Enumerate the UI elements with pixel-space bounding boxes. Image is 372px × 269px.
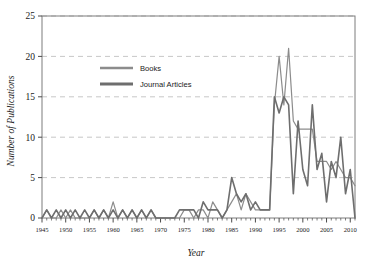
x-tick-label-2010: 2010 [344, 226, 358, 233]
y-tick-label-0: 0 [30, 213, 35, 223]
x-tick-label-1980: 1980 [201, 226, 215, 233]
x-tick-label-1965: 1965 [130, 226, 144, 233]
y-tick-label-5: 5 [30, 173, 35, 183]
x-tick-label-1995: 1995 [273, 226, 287, 233]
legend-label-journal-articles: Journal Articles [140, 80, 192, 89]
y-tick-label-20: 20 [26, 52, 36, 62]
x-tick-label-2005: 2005 [320, 226, 334, 233]
x-tick-label-1955: 1955 [83, 226, 97, 233]
y-axis-title: Number of Publications [6, 75, 16, 167]
chart-canvas: 0510152025 19451950195519601965197019751… [0, 0, 372, 269]
y-tick-label-15: 15 [26, 92, 36, 102]
x-axis-title: Year [187, 248, 204, 258]
x-tick-label-1990: 1990 [249, 226, 263, 233]
x-tick-label-1970: 1970 [154, 226, 168, 233]
y-tick-label-10: 10 [26, 133, 36, 143]
x-tick-label-1975: 1975 [178, 226, 192, 233]
publications-line-chart: 0510152025 19451950195519601965197019751… [0, 0, 372, 269]
legend-label-books: Books [140, 64, 161, 73]
x-tick-label-1945: 1945 [35, 226, 49, 233]
x-tick-label-2000: 2000 [296, 226, 310, 233]
y-tick-label-25: 25 [26, 11, 36, 21]
x-tick-label-1960: 1960 [107, 226, 121, 233]
x-tick-label-1950: 1950 [59, 226, 73, 233]
x-tick-label-1985: 1985 [225, 226, 239, 233]
